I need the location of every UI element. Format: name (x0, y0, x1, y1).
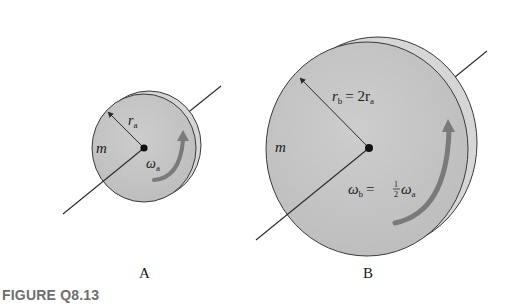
omega-fraction-num: 1 (394, 180, 398, 189)
disk-b: m rb= 2ra ωb= 1 2 ωa B (256, 37, 487, 281)
figure-caption: FIGURE Q8.13 (2, 287, 99, 303)
panel-label-a: A (139, 265, 150, 281)
center-dot-b (365, 144, 373, 152)
disk-a: m ra ωa A (63, 86, 221, 281)
mass-label-a: m (96, 140, 107, 156)
figure-canvas: m ra ωa A m rb= 2ra ωb= 1 2 ωa B (0, 0, 510, 307)
omega-fraction-den: 2 (394, 190, 398, 199)
mass-label-b: m (275, 139, 286, 155)
axle-b-back (455, 51, 487, 77)
panel-label-b: B (363, 265, 373, 281)
center-dot-a (140, 144, 147, 151)
